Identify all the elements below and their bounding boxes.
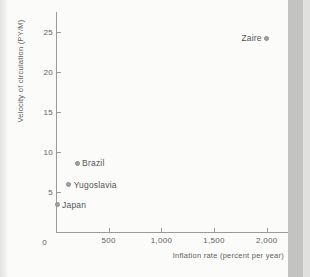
y-tick	[57, 32, 61, 33]
data-point-label-zaire: Zaire	[241, 33, 261, 43]
data-point-japan	[55, 202, 60, 207]
data-point-label-japan: Japan	[62, 200, 86, 210]
x-tick-label: 1,000	[146, 236, 176, 245]
x-tick	[161, 228, 162, 232]
y-tick	[57, 72, 61, 73]
plot-area: 51015202505001,0001,5002,000JapanYugosla…	[0, 0, 310, 277]
y-axis-line	[56, 12, 57, 232]
x-tick	[214, 228, 215, 232]
data-point-label-brazil: Brazil	[82, 158, 104, 168]
data-point-zaire	[264, 36, 269, 41]
x-tick-label: 500	[94, 236, 124, 245]
y-tick	[57, 152, 61, 153]
x-tick-label: 2,000	[252, 236, 282, 245]
data-point-label-yugoslavia: Yugoslavia	[74, 180, 117, 190]
x-tick	[267, 228, 268, 232]
y-tick	[57, 112, 61, 113]
figure-scatter-velocity-vs-inflation: Velocity of circulation (PY/M) Inflation…	[0, 0, 310, 277]
y-tick-label: 5	[31, 188, 53, 197]
origin-label: 0	[25, 238, 47, 247]
y-tick	[57, 192, 61, 193]
data-point-brazil	[75, 161, 80, 166]
y-tick-label: 25	[31, 28, 53, 37]
y-tick-label: 10	[31, 148, 53, 157]
x-tick	[109, 228, 110, 232]
data-point-yugoslavia	[66, 182, 71, 187]
x-tick-label: 1,500	[199, 236, 229, 245]
y-tick-label: 15	[31, 108, 53, 117]
y-tick-label: 20	[31, 68, 53, 77]
x-axis-line	[56, 232, 288, 233]
